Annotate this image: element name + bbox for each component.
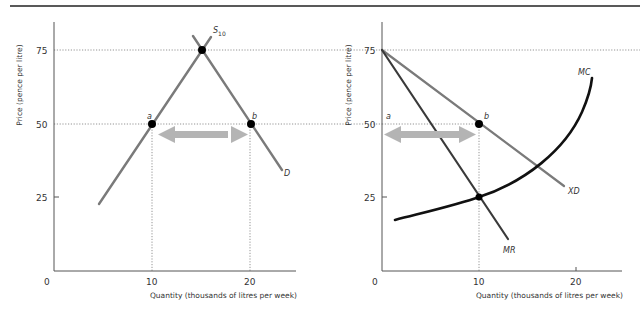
point-b-right	[475, 120, 483, 128]
point-a-label-right: a	[386, 112, 391, 121]
point-b	[247, 120, 255, 128]
point-b-label: b	[252, 112, 257, 121]
left-y-axis-title: Price (pence per litre)	[15, 44, 24, 125]
right-guides	[382, 124, 479, 271]
right-double-arrow	[384, 126, 476, 143]
left-y-tick-label-25: 25	[36, 193, 47, 203]
left-origin-label: 0	[44, 277, 50, 287]
supply-curve	[99, 37, 211, 204]
left-y-tick-label-75: 75	[36, 46, 47, 56]
right-x-tick-label-20: 20	[570, 277, 582, 287]
left-x-tick-label-20: 20	[244, 277, 256, 287]
right-y-tick-label-50: 50	[364, 120, 376, 130]
demand-curve	[193, 36, 282, 170]
supply-label: S10	[213, 26, 226, 37]
right-y-axis-title: Price (pence per litre)	[344, 44, 353, 125]
mr-curve	[382, 50, 508, 239]
left-y-tick-label-50: 50	[36, 120, 48, 130]
right-x-tick-label-10: 10	[473, 277, 485, 287]
mc-curve	[395, 78, 592, 220]
right-origin-label: 0	[372, 277, 378, 287]
point-a	[148, 120, 156, 128]
mr-mc-intersection-point	[476, 194, 483, 201]
right-chart: a b MC XD MR 75 50 25 0 10 20 Quantity (…	[344, 22, 623, 300]
right-y-tick-label-25: 25	[364, 193, 375, 203]
xd-label: XD	[567, 187, 580, 196]
equilibrium-point	[198, 46, 206, 54]
point-b-label-right: b	[484, 112, 489, 121]
left-chart: a b S10 D 75 50 25 0 10 20 Quantity (tho…	[15, 22, 640, 300]
right-x-axis-title: Quantity (thousands of litres per week)	[476, 291, 623, 300]
right-y-tick-label-75: 75	[364, 46, 375, 56]
point-a-label: a	[147, 112, 152, 121]
left-x-tick-label-10: 10	[146, 277, 158, 287]
mr-label: MR	[503, 246, 515, 255]
mc-label: MC	[578, 68, 591, 77]
left-x-axis-title: Quantity (thousands of litres per week)	[150, 291, 297, 300]
left-double-arrow	[158, 126, 248, 143]
figure-canvas: a b S10 D 75 50 25 0 10 20 Quantity (tho…	[0, 0, 640, 317]
figure: a b S10 D 75 50 25 0 10 20 Quantity (tho…	[0, 0, 640, 317]
demand-label: D	[284, 169, 290, 178]
